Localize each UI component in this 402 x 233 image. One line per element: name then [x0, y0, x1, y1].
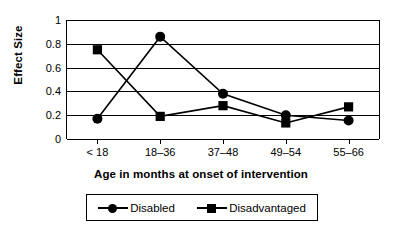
- y-tick-label-06: 0.6: [24, 63, 66, 74]
- x-tick-mark-1: [97, 139, 98, 144]
- data-point-marker: [218, 101, 227, 110]
- y-tick-label-04: 0.4: [24, 86, 66, 97]
- x-tick-label-49-54: 49–54: [250, 146, 322, 158]
- effect-size-line-chart: Effect Size 1 0.8 0.6 0.4 0.2 0 < 18 18–…: [0, 0, 402, 233]
- data-point-marker: [156, 112, 165, 121]
- x-tick-label-55-66: 55–66: [313, 146, 385, 158]
- x-tick-label-37-48: 37–48: [187, 146, 259, 158]
- data-point-marker: [93, 45, 102, 54]
- data-point-marker: [92, 114, 102, 124]
- series-line: [97, 50, 348, 123]
- x-tick-mark-4: [286, 139, 287, 144]
- y-tick-label-1: 1: [24, 15, 66, 26]
- series-disabled: [92, 32, 353, 126]
- legend-label-disadvantaged: Disadvantaged: [229, 202, 306, 214]
- chart-legend: Disabled Disadvantaged: [86, 194, 318, 221]
- x-axis-title: Age in months at onset of intervention: [0, 168, 402, 180]
- data-point-marker: [281, 118, 290, 127]
- square-marker-icon: [197, 202, 227, 214]
- x-tick-mark-3: [223, 139, 224, 144]
- series-disadvantaged: [93, 45, 353, 127]
- data-point-marker: [344, 116, 354, 126]
- x-tick-label-under18: < 18: [61, 146, 133, 158]
- y-tick-label-0: 0: [24, 134, 66, 145]
- x-tick-mark-5: [349, 139, 350, 144]
- y-tick-label-08: 0.8: [24, 39, 66, 50]
- legend-entry-disadvantaged[interactable]: Disadvantaged: [197, 202, 306, 214]
- series-layer: [66, 20, 380, 139]
- data-point-marker: [218, 89, 228, 99]
- circle-marker-icon: [98, 202, 128, 214]
- legend-entry-disabled[interactable]: Disabled: [98, 202, 175, 214]
- x-tick-label-18-36: 18–36: [124, 146, 196, 158]
- data-point-marker: [344, 102, 353, 111]
- x-tick-mark-2: [160, 139, 161, 144]
- data-point-marker: [155, 32, 165, 42]
- legend-label-disabled: Disabled: [130, 202, 175, 214]
- y-tick-label-02: 0.2: [24, 110, 66, 121]
